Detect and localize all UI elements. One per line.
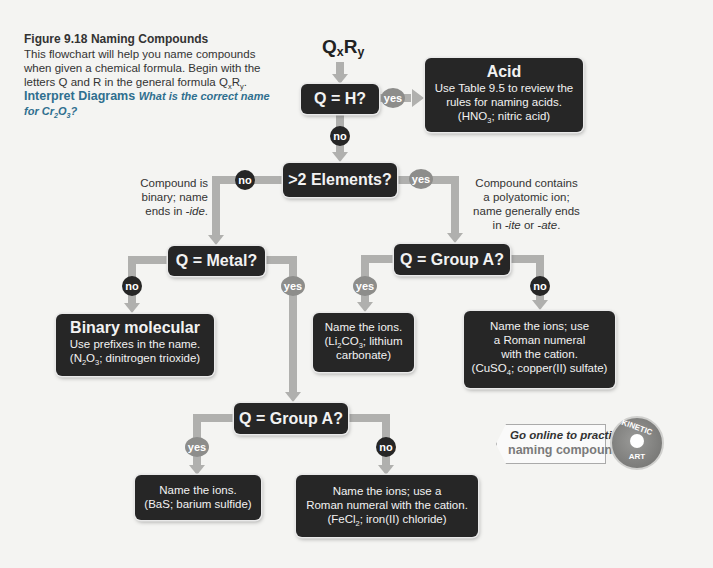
start-formula: QxRy bbox=[322, 36, 364, 58]
arrow-down-icon bbox=[332, 152, 348, 162]
result-polyatomic-group-a: Name the ions. (Li2CO3; lithium carbonat… bbox=[313, 313, 414, 372]
decision-q-equals-h: Q = H? bbox=[301, 84, 379, 114]
decision-q-equals-group-a-metal: Q = Group A? bbox=[234, 403, 348, 434]
decision-more-than-two-elements: >2 Elements? bbox=[283, 163, 397, 197]
result-metal-not-group-a: Name the ions; use a Roman numeral with … bbox=[296, 475, 478, 537]
yes-badge: yes bbox=[281, 276, 305, 296]
interpret-label: Interpret Diagrams bbox=[24, 89, 135, 103]
kinetic-art-link[interactable]: Go online to practice naming compounds. bbox=[496, 424, 606, 464]
arrow-down-icon bbox=[285, 392, 301, 402]
yes-badge: yes bbox=[353, 276, 377, 296]
figure-description: This flowchart will help you name compou… bbox=[24, 47, 274, 89]
no-badge: no bbox=[122, 276, 142, 296]
arrow-right-icon bbox=[412, 89, 424, 107]
no-badge: no bbox=[530, 276, 550, 296]
connector bbox=[451, 176, 459, 234]
yes-badge: yes bbox=[185, 437, 209, 457]
arrow-down-icon bbox=[208, 235, 224, 245]
result-binary-molecular: Binary molecular Use prefixes in the nam… bbox=[56, 314, 214, 376]
figure-caption: Figure 9.18 Naming Compounds This flowch… bbox=[24, 32, 274, 119]
yes-badge: yes bbox=[409, 169, 433, 189]
polyatomic-note: Compound contains a polyatomic ion; name… bbox=[464, 176, 589, 232]
arrow-down-icon bbox=[124, 303, 140, 313]
arrow-down-icon bbox=[532, 300, 548, 310]
no-badge: no bbox=[330, 126, 350, 146]
no-badge: no bbox=[235, 170, 255, 190]
arrow-down-icon bbox=[447, 233, 463, 243]
arrow-down-icon bbox=[189, 465, 205, 475]
orb-icon bbox=[630, 434, 644, 448]
decision-q-equals-metal: Q = Metal? bbox=[168, 246, 265, 276]
promo-line-1: Go online to practice bbox=[510, 429, 624, 441]
figure-label: Figure 9.18 bbox=[24, 32, 87, 46]
result-polyatomic-not-group-a: Name the ions; use a Roman numeral with … bbox=[464, 311, 615, 388]
arrow-down-icon bbox=[378, 465, 394, 475]
arrow-down-icon bbox=[332, 74, 348, 84]
yes-badge: yes bbox=[381, 88, 405, 108]
binary-note: Compound is binary; name ends in -ide. bbox=[110, 176, 208, 218]
figure-title: Naming Compounds bbox=[91, 32, 208, 46]
arrow-down-icon bbox=[357, 302, 373, 312]
connector bbox=[212, 176, 220, 236]
result-metal-group-a: Name the ions. (BaS; barium sulfide) bbox=[135, 475, 261, 520]
result-acid: Acid Use Table 9.5 to review the rules f… bbox=[425, 58, 583, 132]
decision-q-equals-group-a-polyatomic: Q = Group A? bbox=[394, 244, 510, 275]
kinetic-art-badge-icon[interactable]: KINETIC ART bbox=[610, 416, 664, 470]
no-badge: no bbox=[376, 437, 396, 457]
